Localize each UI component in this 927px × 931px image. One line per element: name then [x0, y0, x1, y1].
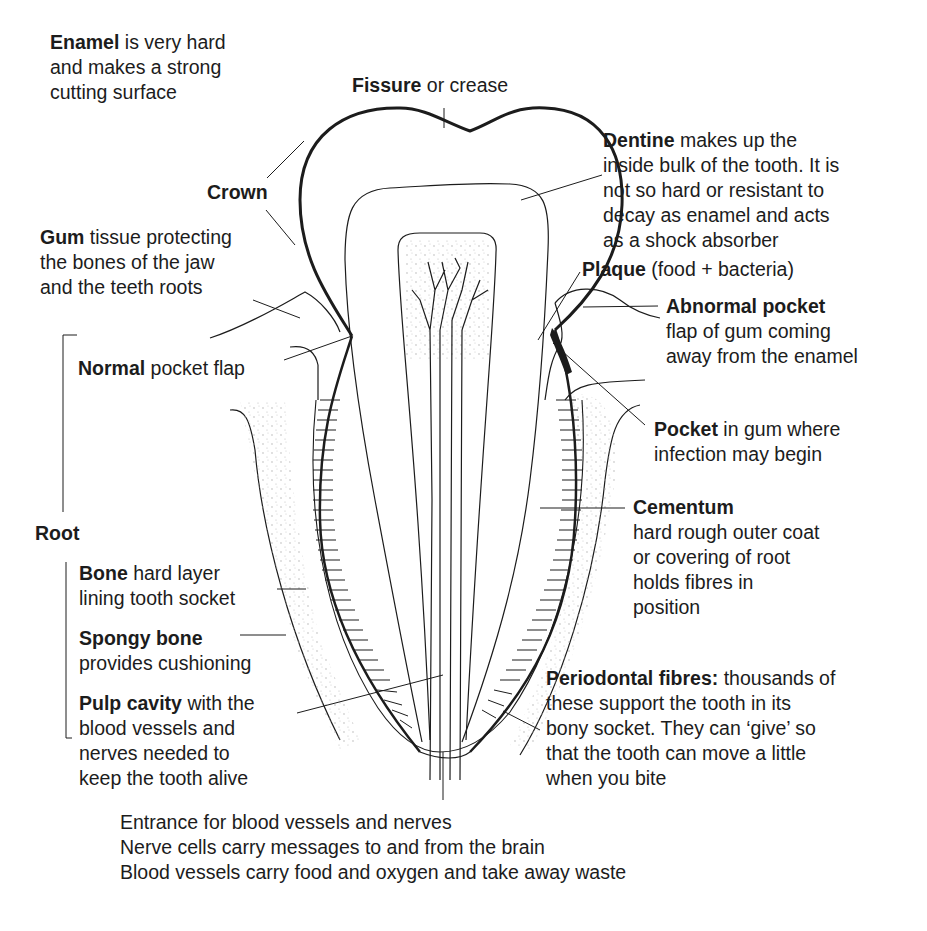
label-pocket: Pocket in gum where infection may begin: [654, 417, 840, 467]
label-entrance: Entrance for blood vessels and nerves Ne…: [120, 810, 626, 885]
label-abnormal-pocket: Abnormal pocket flap of gum coming away …: [666, 294, 858, 369]
label-pulp-cavity: Pulp cavity with the blood vessels and n…: [79, 691, 255, 791]
label-bone: Bone hard layer lining tooth socket: [79, 561, 235, 611]
label-root: Root: [35, 521, 79, 546]
label-periodontal-fibres: Periodontal fibres: thousands of these s…: [546, 666, 835, 791]
label-dentine: Dentine makes up the inside bulk of the …: [603, 128, 839, 253]
label-gum: Gum tissue protecting the bones of the j…: [40, 225, 232, 300]
label-fissure: Fissure or crease: [352, 73, 508, 98]
label-cementum: Cementum hard rough outer coat or coveri…: [633, 495, 819, 620]
label-enamel: Enamel is very hard and makes a strong c…: [50, 30, 226, 105]
label-plaque: Plaque (food + bacteria): [582, 257, 794, 282]
label-spongy-bone: Spongy bone provides cushioning: [79, 626, 251, 676]
label-normal-pocket: Normal pocket flap: [78, 356, 245, 381]
label-crown: Crown: [207, 180, 268, 205]
plaque-deposit: [550, 328, 572, 375]
